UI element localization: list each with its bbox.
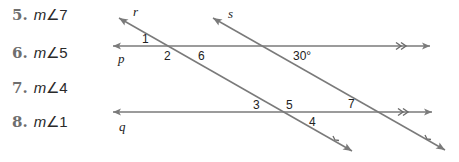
angle-label-5: 5 — [286, 98, 293, 112]
line-label-q: q — [119, 119, 126, 134]
angle-label-6: 6 — [198, 49, 205, 63]
angle-label-1: 1 — [142, 32, 149, 46]
geometry-figure: r s p q 1 2 6 30° 3 5 7 4 — [0, 0, 459, 162]
angle-label-30: 30° — [293, 49, 311, 63]
line-label-r: r — [133, 4, 139, 19]
line-label-p: p — [117, 51, 125, 66]
angle-label-3: 3 — [253, 98, 260, 112]
angle-label-4: 4 — [309, 115, 316, 129]
line-label-s: s — [228, 6, 233, 21]
angle-label-7: 7 — [348, 97, 355, 111]
line-s — [213, 18, 445, 150]
angle-label-2: 2 — [164, 49, 171, 63]
line-r — [119, 18, 352, 151]
